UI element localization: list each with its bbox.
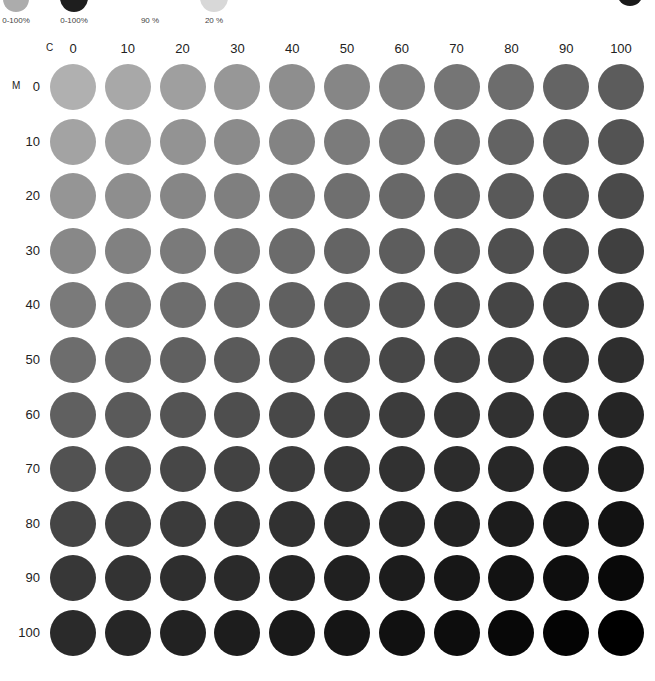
- color-swatch: [105, 501, 151, 547]
- color-swatch: [379, 610, 425, 656]
- color-swatch: [543, 392, 589, 438]
- row-label: 40: [10, 297, 40, 312]
- color-swatch: [379, 555, 425, 601]
- color-swatch: [434, 228, 480, 274]
- color-swatch: [160, 282, 206, 328]
- color-swatch: [160, 119, 206, 165]
- color-swatch: [324, 228, 370, 274]
- color-swatch: [105, 282, 151, 328]
- color-swatch: [598, 119, 644, 165]
- color-swatch: [434, 501, 480, 547]
- legend-label: 20 %: [189, 16, 239, 25]
- color-swatch: [214, 446, 260, 492]
- column-label: 70: [437, 41, 477, 56]
- color-swatch: [379, 392, 425, 438]
- color-swatch: [160, 64, 206, 110]
- color-swatch: [434, 64, 480, 110]
- row-label: 20: [10, 188, 40, 203]
- row-label: 50: [10, 352, 40, 367]
- color-swatch: [543, 337, 589, 383]
- color-swatch: [50, 228, 96, 274]
- color-swatch: [379, 119, 425, 165]
- color-swatch: [379, 282, 425, 328]
- color-swatch: [105, 555, 151, 601]
- color-swatch: [434, 555, 480, 601]
- color-swatch: [434, 446, 480, 492]
- color-swatch: [543, 173, 589, 219]
- row-label: 100: [10, 625, 40, 640]
- color-swatch: [488, 119, 534, 165]
- color-swatch: [324, 173, 370, 219]
- color-swatch: [214, 610, 260, 656]
- color-swatch: [214, 119, 260, 165]
- corner-swatch: [617, 0, 643, 6]
- color-swatch: [50, 555, 96, 601]
- color-swatch: [379, 446, 425, 492]
- color-swatch: [543, 446, 589, 492]
- color-swatch: [434, 610, 480, 656]
- column-label: 60: [382, 41, 422, 56]
- color-swatch: [324, 64, 370, 110]
- color-swatch: [379, 228, 425, 274]
- color-swatch: [543, 501, 589, 547]
- color-swatch: [105, 337, 151, 383]
- color-swatch: [269, 337, 315, 383]
- color-swatch: [214, 555, 260, 601]
- color-swatch: [598, 282, 644, 328]
- color-swatch: [434, 173, 480, 219]
- color-swatch: [598, 337, 644, 383]
- color-swatch: [269, 555, 315, 601]
- color-swatch: [50, 282, 96, 328]
- color-swatch: [488, 610, 534, 656]
- color-swatch: [434, 282, 480, 328]
- column-label: 30: [217, 41, 257, 56]
- color-swatch: [488, 173, 534, 219]
- legend-swatch: [3, 0, 29, 12]
- color-swatch: [50, 446, 96, 492]
- color-swatch: [160, 446, 206, 492]
- column-label: 40: [272, 41, 312, 56]
- color-swatch: [598, 228, 644, 274]
- color-swatch: [379, 173, 425, 219]
- color-swatch: [488, 282, 534, 328]
- column-label: 20: [163, 41, 203, 56]
- color-swatch: [105, 228, 151, 274]
- color-swatch: [50, 610, 96, 656]
- color-swatch: [214, 173, 260, 219]
- color-swatch: [269, 610, 315, 656]
- color-swatch: [269, 392, 315, 438]
- color-swatch: [324, 610, 370, 656]
- color-swatch: [488, 501, 534, 547]
- legend-swatch: [60, 0, 88, 12]
- color-swatch: [324, 282, 370, 328]
- color-swatch: [214, 282, 260, 328]
- color-swatch: [598, 555, 644, 601]
- color-swatch: [543, 555, 589, 601]
- color-swatch: [214, 64, 260, 110]
- color-swatch: [324, 119, 370, 165]
- row-label: 60: [10, 407, 40, 422]
- column-label: 0: [53, 41, 93, 56]
- color-swatch: [488, 555, 534, 601]
- color-swatch: [324, 337, 370, 383]
- color-swatch: [105, 173, 151, 219]
- color-swatch: [160, 392, 206, 438]
- color-swatch: [50, 501, 96, 547]
- color-swatch: [160, 501, 206, 547]
- color-swatch: [50, 119, 96, 165]
- color-swatch: [434, 119, 480, 165]
- row-label: 80: [10, 516, 40, 531]
- color-swatch: [488, 337, 534, 383]
- color-swatch: [50, 173, 96, 219]
- color-swatch: [543, 228, 589, 274]
- color-swatch: [598, 610, 644, 656]
- color-swatch: [160, 555, 206, 601]
- color-swatch: [214, 501, 260, 547]
- color-swatch: [214, 228, 260, 274]
- color-swatch: [379, 501, 425, 547]
- column-label: 10: [108, 41, 148, 56]
- color-swatch: [269, 64, 315, 110]
- column-label: 50: [327, 41, 367, 56]
- color-swatch: [543, 610, 589, 656]
- legend-swatch: [200, 0, 228, 12]
